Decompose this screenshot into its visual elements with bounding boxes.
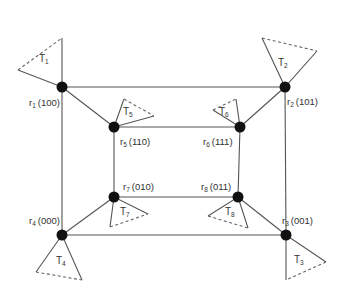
node-label-r4: r4(000)	[29, 215, 60, 227]
tree-label-T8: T8	[225, 206, 235, 218]
tree-T1: T1	[18, 38, 62, 87]
tree-T8: T8	[208, 197, 248, 228]
node-r8	[233, 192, 244, 203]
tree-label-T1: T1	[39, 53, 49, 65]
node-label-r5: r5(110)	[120, 136, 150, 148]
tree-T3: T3	[286, 235, 326, 280]
node-r5	[109, 122, 120, 133]
node-label-r8: r8(011)	[201, 181, 231, 193]
node-r1	[57, 82, 68, 93]
node-label-r2: r2(101)	[287, 96, 318, 108]
tree-T6: T6	[213, 99, 240, 127]
tree-label-T2: T2	[278, 57, 288, 69]
tree-T4: T4	[36, 235, 82, 280]
cube-edges	[62, 87, 286, 235]
tree-label-T6: T6	[219, 106, 229, 118]
node-r3	[281, 230, 292, 241]
tree-T5: T5	[114, 99, 154, 127]
node-label-r6: r6(111)	[203, 136, 233, 148]
edge-r2-r3	[285, 87, 286, 235]
node-labels: r1(100) r2(101) r3(001) r4(000) r5(110) …	[29, 96, 318, 227]
router-nodes	[57, 82, 292, 241]
node-r4	[57, 230, 68, 241]
edge-r1-r5	[62, 87, 114, 127]
node-r7	[109, 192, 120, 203]
node-label-r1: r1(100)	[29, 97, 60, 109]
node-r6	[235, 122, 246, 133]
tree-label-T5: T5	[123, 106, 133, 118]
node-r2	[280, 82, 291, 93]
tree-T2: T2	[262, 38, 317, 87]
edge-r2-r6	[240, 87, 285, 127]
edge-r6-r8	[238, 127, 240, 197]
edge-r3-r8	[238, 197, 286, 235]
tree-label-T4: T4	[56, 255, 66, 267]
node-label-r3: r3(001)	[282, 215, 313, 227]
node-label-r7: r7(010)	[123, 181, 154, 193]
tree-label-T7: T7	[120, 206, 130, 218]
edge-r4-r7	[62, 197, 114, 235]
hypercube-diagram: T1 T2 T3 T4 T5 T6 T7 T8	[0, 0, 350, 294]
tree-label-T3: T3	[294, 254, 304, 266]
